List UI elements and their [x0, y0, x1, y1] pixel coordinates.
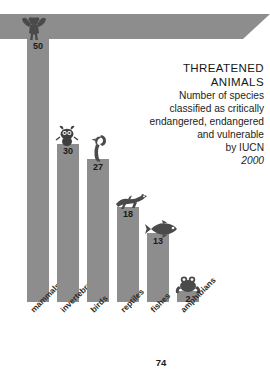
bar-chart: 50mammals30invertebrates27birds18reptile… — [0, 0, 270, 379]
subtitle-line-1: Number of species — [128, 89, 264, 102]
subtitle-line-4: and vulnerable — [128, 128, 264, 141]
title-line-2: ANIMALS — [128, 76, 264, 90]
bar-value-mammals: 50 — [27, 41, 49, 51]
subtitle-line-2: classified as critically — [128, 102, 264, 115]
lizard-icon — [114, 191, 144, 211]
bar-value-fishes: 13 — [147, 236, 169, 246]
page-number: 74 — [150, 357, 172, 368]
source-line: by IUCN — [128, 141, 264, 154]
year-label: 2000 — [128, 154, 264, 167]
subtitle-line-3: endangered, endangered — [128, 115, 264, 128]
bird-icon — [83, 132, 113, 162]
bar-value-birds: 27 — [87, 162, 109, 172]
bar-reptiles — [117, 207, 139, 302]
bar-value-reptiles: 18 — [117, 209, 139, 219]
bar-invertebrates — [57, 144, 79, 302]
title-line-1: THREATENED — [128, 62, 264, 76]
title-block: THREATENED ANIMALS Number of species cla… — [128, 62, 264, 167]
bar-mammals — [27, 38, 49, 302]
infographic-page: 50mammals30invertebrates27birds18reptile… — [0, 0, 270, 379]
bar-value-invertebrates: 30 — [57, 146, 79, 156]
insect-icon — [52, 125, 82, 147]
monkey-icon — [19, 14, 49, 40]
bar-birds — [87, 159, 109, 302]
